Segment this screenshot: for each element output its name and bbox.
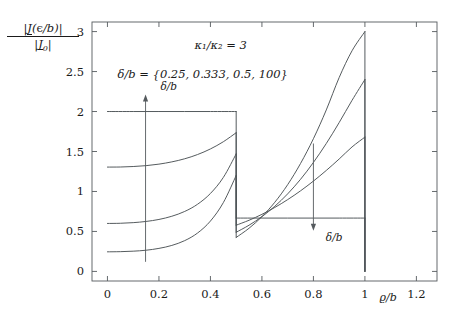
arrow-up-label: δ/b — [161, 80, 178, 92]
y-axis-label-denominator: |J0| — [7, 37, 79, 54]
y-tick-label: 0 — [77, 264, 84, 278]
axes-group: 00.20.40.60.811.200.511.522.53ϱ/b — [66, 22, 437, 304]
annotation-kappa-ratio: κ₁/κ₂ = 3 — [194, 38, 247, 52]
arrow-down-head — [311, 224, 316, 231]
y-tick-label: 2.5 — [66, 65, 84, 79]
plot-frame — [92, 22, 437, 281]
annotations-group: κ₁/κ₂ = 3δ/b = {0.25, 0.333, 0.5, 100}δ/… — [117, 38, 342, 262]
x-axis-label-text: ϱ/b — [379, 291, 396, 304]
curve-outer — [236, 137, 365, 225]
arrow-up-head — [143, 95, 148, 102]
y-axis-label-numerator: |J(ϵ/b)| — [7, 22, 79, 37]
curve-inner — [107, 133, 236, 167]
figure-container: |J(ϵ/b)| |J0| 00.20.40.60.811.200.511.52… — [0, 0, 466, 323]
x-tick-label: 0.6 — [253, 287, 271, 301]
x-tick-label: 0.4 — [201, 287, 219, 301]
arrow-down-label: δ/b — [326, 231, 343, 243]
curve-outer — [236, 32, 365, 238]
y-tick-label: 2 — [77, 105, 84, 119]
y-tick-label: 1.5 — [66, 145, 84, 159]
annotation-delta-set: δ/b = {0.25, 0.333, 0.5, 100} — [117, 67, 287, 81]
x-tick-label: 1.2 — [407, 287, 425, 301]
x-tick-label: 0.8 — [304, 287, 322, 301]
x-tick-label: 0 — [104, 287, 111, 301]
y-tick-label: 1 — [77, 184, 84, 198]
x-tick-label: 1 — [361, 287, 368, 301]
y-tick-label: 0.5 — [66, 224, 84, 238]
y-axis-label: |J(ϵ/b)| |J0| — [7, 22, 79, 54]
curve-outer — [236, 80, 365, 233]
x-tick-label: 0.2 — [150, 287, 168, 301]
